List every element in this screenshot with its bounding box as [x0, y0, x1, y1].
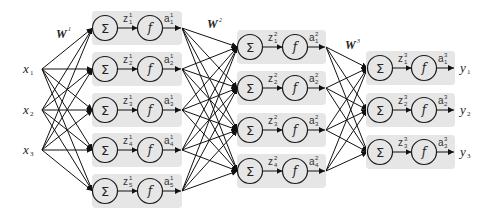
weight-label-2: W2	[207, 17, 222, 31]
output-sub: 2	[467, 110, 471, 118]
z-base: z	[268, 73, 273, 84]
sigma-icon: Σ	[376, 103, 384, 118]
connection-edge	[182, 47, 238, 150]
input-base: x	[22, 142, 29, 157]
z-base: z	[123, 135, 128, 146]
input-label-1: x1	[22, 61, 34, 77]
a-label: a24	[309, 155, 319, 168]
weight-label-1: W1	[56, 26, 71, 41]
layer-1-node-4: Σ f z14 a14	[92, 133, 182, 167]
layer-1-node-2: Σ f z12 a12	[92, 52, 182, 86]
a-label: a32	[438, 94, 448, 107]
input-sub: 3	[30, 150, 34, 158]
output-sub: 1	[467, 68, 471, 76]
connection-edge	[182, 171, 238, 191]
weight-sup: 2	[219, 17, 222, 23]
sigma-icon: Σ	[246, 164, 254, 179]
sigma-icon: Σ	[246, 81, 254, 96]
z-base: z	[398, 95, 403, 106]
z-base: z	[398, 53, 403, 64]
z-base: z	[398, 137, 403, 148]
weight-label-3: W3	[345, 38, 360, 52]
output-label-3: y3	[458, 144, 471, 160]
input-base: x	[22, 102, 29, 117]
sigma-icon: Σ	[246, 40, 254, 55]
input-base: x	[22, 61, 29, 76]
layer-3-node-1: Σ f z31 a31	[366, 51, 455, 85]
z-base: z	[268, 115, 273, 126]
a-label: a33	[438, 136, 448, 149]
weight-sup: 1	[68, 26, 71, 32]
z-base: z	[268, 32, 273, 43]
connection-edge	[42, 28, 93, 69]
sigma-icon: Σ	[101, 184, 109, 199]
a-label: a15	[164, 175, 174, 188]
layer-3-node-3: Σ f z33 a33	[366, 135, 455, 169]
sigma-icon: Σ	[376, 61, 384, 76]
weight-base: W	[207, 17, 219, 31]
z-base: z	[123, 13, 128, 24]
a-label: a13	[164, 94, 174, 107]
a-label: a23	[309, 114, 319, 127]
layer-2-node-4: Σ f z24 a24	[237, 154, 326, 188]
a-label: a14	[164, 134, 174, 147]
layer-3-node-2: Σ f z32 a32	[366, 93, 455, 127]
connection-edge	[42, 150, 93, 191]
connection-edge	[42, 28, 93, 150]
output-base: y	[458, 144, 466, 159]
sigma-icon: Σ	[376, 145, 384, 160]
layer-1-node-1: Σ f z11 a11	[92, 11, 182, 45]
sigma-icon: Σ	[101, 21, 109, 36]
a-label: a31	[438, 52, 448, 65]
layer-2-node-3: Σ f z23 a23	[237, 113, 326, 147]
layer-1-node-5: Σ f z15 a15	[92, 174, 182, 208]
output-base: y	[458, 102, 466, 117]
a-label: a22	[309, 72, 319, 85]
input-label-2: x2	[22, 102, 34, 118]
a-label: a12	[164, 53, 174, 66]
output-label-2: y2	[458, 102, 471, 118]
z-base: z	[123, 54, 128, 65]
sigma-icon: Σ	[101, 62, 109, 77]
sigma-icon: Σ	[246, 123, 254, 138]
input-label-3: x3	[22, 142, 34, 158]
input-sub: 1	[30, 69, 34, 77]
output-base: y	[458, 60, 466, 75]
sigma-icon: Σ	[101, 143, 109, 158]
weight-base: W	[56, 27, 68, 41]
weight-base: W	[345, 38, 357, 52]
weight-sup: 3	[356, 38, 360, 44]
layer-2-node-2: Σ f z22 a22	[237, 71, 326, 105]
z-base: z	[123, 95, 128, 106]
z-base: z	[123, 176, 128, 187]
a-label: a11	[164, 12, 174, 25]
layer-2-node-1: Σ f z21 a21	[237, 30, 326, 64]
layer-1-node-3: Σ f z13 a13	[92, 93, 182, 127]
a-label: a21	[309, 31, 319, 44]
input-sub: 2	[30, 110, 34, 118]
sigma-icon: Σ	[101, 103, 109, 118]
z-base: z	[268, 156, 273, 167]
output-label-1: y1	[458, 60, 471, 76]
neural-network-diagram: W1 W2 W3 x1 x2 x3 Σ f z11 a11 Σ f z12 a1…	[0, 0, 491, 215]
output-sub: 3	[467, 152, 471, 160]
